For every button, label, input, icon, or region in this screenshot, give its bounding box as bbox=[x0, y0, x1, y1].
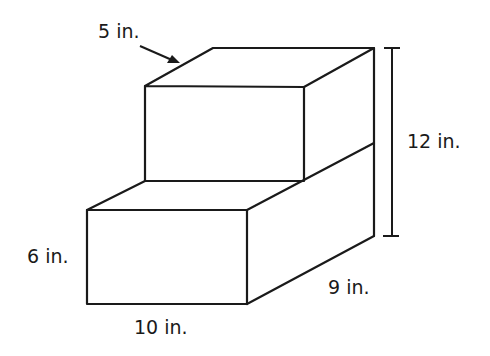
bottom-box-front-face bbox=[87, 210, 247, 304]
step-left-edge bbox=[87, 181, 145, 210]
stepped-prism-figure bbox=[0, 0, 490, 356]
label-bottom-width: 10 in. bbox=[134, 318, 188, 337]
step-right-edge bbox=[247, 143, 374, 210]
top-box-front-face bbox=[145, 86, 304, 181]
height-dimension-line bbox=[383, 48, 400, 236]
label-bottom-height: 6 in. bbox=[27, 247, 69, 266]
label-bottom-depth: 9 in. bbox=[328, 278, 370, 297]
label-total-height: 12 in. bbox=[407, 132, 461, 151]
label-top-depth: 5 in. bbox=[98, 22, 140, 41]
arrow-icon bbox=[140, 46, 180, 63]
